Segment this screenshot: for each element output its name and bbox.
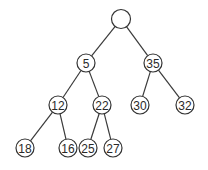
tree-edge xyxy=(89,71,99,96)
node-label: 5 xyxy=(83,57,90,71)
node-label: 16 xyxy=(61,142,75,156)
tree-node-root xyxy=(112,10,131,29)
node-label: 22 xyxy=(95,99,109,113)
tree-node-22: 22 xyxy=(93,96,111,114)
node-label: 12 xyxy=(51,99,65,113)
tree-edges xyxy=(30,26,179,141)
tree-edge xyxy=(63,70,81,97)
tree-edge xyxy=(158,70,179,98)
node-label: 18 xyxy=(18,142,32,156)
tree-node-18: 18 xyxy=(16,139,34,157)
tree-node-30: 30 xyxy=(131,96,149,114)
tree-node-25: 25 xyxy=(79,139,97,157)
tree-edge xyxy=(30,112,52,141)
tree-node-12: 12 xyxy=(49,96,67,114)
tree-node-32: 32 xyxy=(176,96,194,114)
node-label: 30 xyxy=(133,99,147,113)
node-circle xyxy=(112,10,131,29)
tree-edge xyxy=(104,114,111,140)
tree-edge xyxy=(60,114,66,139)
node-label: 25 xyxy=(81,142,95,156)
tree-nodes: 5351222303218162527 xyxy=(16,10,194,158)
node-label: 32 xyxy=(178,99,192,113)
tree-node-35: 35 xyxy=(144,54,162,72)
tree-node-16: 16 xyxy=(59,139,77,157)
tree-edge xyxy=(92,26,116,56)
tree-node-27: 27 xyxy=(104,139,122,157)
tree-edge xyxy=(91,114,99,140)
node-label: 27 xyxy=(106,142,120,156)
node-label: 35 xyxy=(146,57,160,71)
tree-diagram: 5351222303218162527 xyxy=(0,0,208,170)
tree-edge xyxy=(126,26,147,55)
tree-node-5: 5 xyxy=(77,54,95,72)
tree-edge xyxy=(143,72,151,97)
